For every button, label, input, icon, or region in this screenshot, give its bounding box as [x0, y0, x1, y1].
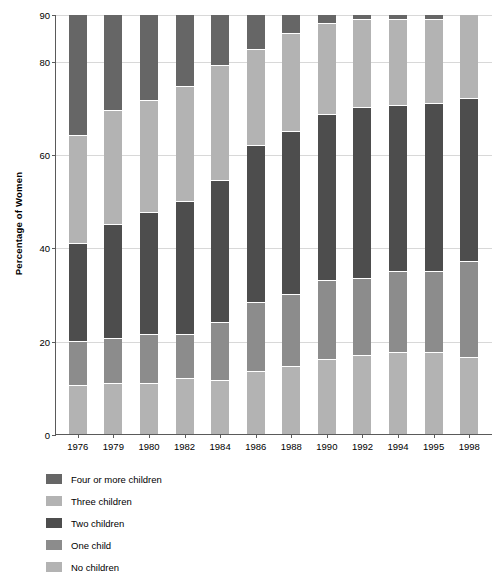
- x-tick-mark: [469, 434, 470, 438]
- legend-swatch-icon: [46, 562, 62, 572]
- bar-segment: [69, 385, 87, 434]
- bar-segment: [176, 14, 194, 86]
- bar-segment: [389, 271, 407, 353]
- bar-1986[interactable]: 1986: [247, 14, 265, 434]
- bar-segment: [140, 334, 158, 383]
- bar-segment: [425, 352, 443, 434]
- x-tick-mark: [327, 434, 328, 438]
- y-tick-label: 60: [39, 150, 50, 161]
- bar-segment: [247, 302, 265, 371]
- bar-segment: [353, 278, 371, 355]
- x-tick-mark: [113, 434, 114, 438]
- bar-segment: [69, 135, 87, 242]
- bars-container: 1976197919801982198419861988199019921994…: [56, 15, 492, 434]
- legend-item[interactable]: One child: [46, 534, 346, 556]
- legend-item[interactable]: Four or more children: [46, 468, 346, 490]
- y-tick-label: 90: [39, 10, 50, 21]
- bar-segment: [282, 366, 300, 434]
- legend-item[interactable]: Two children: [46, 512, 346, 534]
- bar-segment: [318, 114, 336, 280]
- x-tick-mark: [256, 434, 257, 438]
- x-tick-label: 1979: [93, 441, 133, 452]
- legend-item[interactable]: No children: [46, 556, 346, 578]
- bar-segment: [425, 103, 443, 271]
- chart-legend: Four or more childrenThree childrenTwo c…: [46, 468, 346, 578]
- bar-segment: [176, 86, 194, 200]
- x-tick-label: 1988: [271, 441, 311, 452]
- bar-segment: [318, 280, 336, 359]
- bar-segment: [318, 23, 336, 114]
- y-tick-label: 80: [39, 56, 50, 67]
- bar-segment: [353, 355, 371, 434]
- x-tick-label: 1994: [378, 441, 418, 452]
- bar-segment: [425, 271, 443, 353]
- bar-1984[interactable]: 1984: [211, 14, 229, 434]
- bar-segment: [247, 14, 265, 49]
- bar-segment: [69, 14, 87, 135]
- x-tick-label: 1984: [200, 441, 240, 452]
- bar-1980[interactable]: 1980: [140, 14, 158, 434]
- bar-1990[interactable]: 1990: [318, 14, 336, 434]
- x-tick-label: 1992: [342, 441, 382, 452]
- y-tick-label: 40: [39, 243, 50, 254]
- legend-label: Two children: [71, 518, 124, 529]
- bar-1992[interactable]: 1992: [353, 14, 371, 434]
- bar-segment: [460, 14, 478, 98]
- bar-segment: [140, 383, 158, 434]
- bar-1979[interactable]: 1979: [104, 14, 122, 434]
- bar-1988[interactable]: 1988: [282, 14, 300, 434]
- legend-item[interactable]: Three children: [46, 490, 346, 512]
- x-tick-mark: [434, 434, 435, 438]
- x-tick-label: 1982: [165, 441, 205, 452]
- bar-1998[interactable]: 1998: [460, 14, 478, 434]
- bar-1976[interactable]: 1976: [69, 14, 87, 434]
- y-tick-label: 20: [39, 336, 50, 347]
- bar-segment: [211, 380, 229, 434]
- bar-segment: [211, 180, 229, 322]
- x-tick-label: 1998: [449, 441, 489, 452]
- bar-1994[interactable]: 1994: [389, 14, 407, 434]
- bar-1995[interactable]: 1995: [425, 14, 443, 434]
- legend-swatch-icon: [46, 540, 62, 550]
- legend-swatch-icon: [46, 474, 62, 484]
- bar-segment: [211, 65, 229, 179]
- bar-segment: [140, 212, 158, 333]
- bar-1982[interactable]: 1982: [176, 14, 194, 434]
- bar-segment: [318, 14, 336, 23]
- bar-segment: [282, 33, 300, 131]
- bar-segment: [389, 19, 407, 105]
- bar-segment: [460, 98, 478, 261]
- y-axis-title: Percentage of Women: [13, 144, 24, 304]
- bar-segment: [460, 261, 478, 357]
- legend-label: Three children: [71, 496, 132, 507]
- bar-segment: [140, 14, 158, 100]
- bar-segment: [104, 110, 122, 224]
- legend-label: Four or more children: [71, 474, 162, 485]
- bar-segment: [389, 105, 407, 271]
- y-tick-mark: [52, 435, 56, 436]
- bar-segment: [353, 107, 371, 277]
- x-tick-mark: [291, 434, 292, 438]
- bar-segment: [353, 19, 371, 108]
- x-tick-mark: [220, 434, 221, 438]
- bar-segment: [176, 378, 194, 434]
- stacked-bar-chart: Percentage of Women 02040608090 19761979…: [0, 0, 499, 583]
- y-tick-label: 0: [45, 430, 50, 441]
- x-tick-label: 1995: [414, 441, 454, 452]
- bar-segment: [282, 131, 300, 294]
- bar-segment: [104, 14, 122, 110]
- plot-area: 02040608090 1976197919801982198419861988…: [55, 15, 492, 435]
- bar-segment: [247, 371, 265, 434]
- x-tick-mark: [362, 434, 363, 438]
- bar-segment: [104, 224, 122, 338]
- bar-segment: [425, 19, 443, 103]
- x-tick-mark: [78, 434, 79, 438]
- x-tick-mark: [149, 434, 150, 438]
- x-tick-mark: [398, 434, 399, 438]
- bar-segment: [176, 334, 194, 378]
- bar-segment: [460, 357, 478, 434]
- x-tick-label: 1980: [129, 441, 169, 452]
- bar-segment: [140, 100, 158, 212]
- legend-swatch-icon: [46, 496, 62, 506]
- bar-segment: [69, 243, 87, 341]
